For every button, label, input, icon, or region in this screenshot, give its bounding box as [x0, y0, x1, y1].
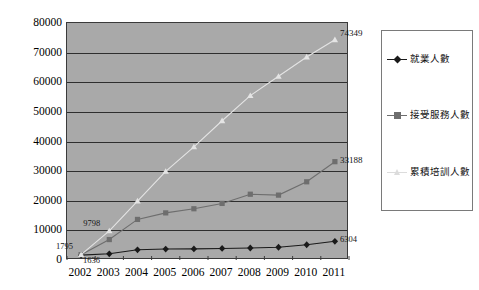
x-tick-label: 2011: [323, 266, 346, 278]
data-label: 9798: [83, 219, 100, 228]
legend-triangle-icon: [387, 167, 407, 178]
y-tick-label: 80000: [2, 17, 62, 27]
legend-diamond-icon: [387, 54, 407, 65]
chart-legend: 就業人數接受服務人數累積培訓人數: [381, 30, 473, 211]
x-tick-label: 2010: [294, 266, 317, 278]
y-tick-label: 70000: [2, 47, 62, 57]
y-axis: 0100002000030000400005000060000700008000…: [0, 0, 62, 290]
data-label: 74349: [340, 29, 363, 38]
data-label: 1795: [56, 242, 73, 251]
x-tick-label: 2009: [266, 266, 289, 278]
y-tick-label: 60000: [2, 76, 62, 86]
x-tick-label: 2002: [69, 266, 92, 278]
legend-item-3[interactable]: 累積培訓人數: [387, 166, 471, 178]
chart-figure: 0100002000030000400005000060000700008000…: [0, 0, 479, 290]
y-tick-label: 50000: [2, 106, 62, 116]
legend-item-label: 累積培訓人數: [410, 166, 470, 178]
legend-item-2[interactable]: 接受服務人數: [387, 109, 471, 121]
legend-square-icon: [387, 110, 407, 121]
y-tick-label: 30000: [2, 165, 62, 175]
x-tick-label: 2006: [181, 266, 204, 278]
legend-item-1[interactable]: 就業人數: [387, 53, 471, 65]
x-tick-label: 2003: [97, 266, 120, 278]
legend-item-label: 就業人數: [410, 53, 450, 65]
series-2: [79, 159, 338, 257]
series-1: [78, 238, 338, 259]
y-tick-label: 40000: [2, 136, 62, 146]
y-tick-label: 10000: [2, 224, 62, 234]
series-layer: [67, 23, 349, 260]
data-label: 33188: [340, 156, 363, 165]
x-tick-label: 2005: [153, 266, 176, 278]
data-label: 1636: [83, 256, 100, 265]
x-tick-label: 2004: [125, 266, 148, 278]
data-label: 6304: [340, 235, 357, 244]
x-axis: 2002200320042005200620072008200920102011: [66, 266, 348, 286]
series-3: [78, 37, 338, 258]
x-tick-label: 2008: [238, 266, 261, 278]
plot-area: [66, 22, 348, 259]
x-tick-label: 2007: [210, 266, 233, 278]
y-tick-label: 0: [2, 254, 62, 264]
y-tick-label: 20000: [2, 195, 62, 205]
legend-item-label: 接受服務人數: [410, 109, 470, 121]
